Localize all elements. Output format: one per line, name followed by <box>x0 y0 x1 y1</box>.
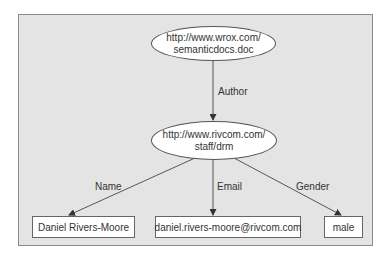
edge-label-email: Email <box>217 181 242 192</box>
node-person-line2: staff/drm <box>195 141 234 153</box>
node-gender-value-box: male <box>324 216 363 238</box>
edge-label-author: Author <box>218 86 247 97</box>
node-name-value-box: Daniel Rivers-Moore <box>32 216 135 238</box>
edge-label-gender: Gender <box>296 181 329 192</box>
node-document-line2: semanticdocs.doc <box>173 44 253 56</box>
edge-label-name: Name <box>95 181 122 192</box>
node-person-ellipse: http://www.rivcom.com/ staff/drm <box>151 121 277 160</box>
node-document-ellipse: http://www.wrox.com/ semanticdocs.doc <box>151 26 276 61</box>
node-email-value-box: daniel.rivers-moore@rivcom.com <box>155 216 301 238</box>
node-person-line1: http://www.rivcom.com/ <box>163 129 266 141</box>
node-document-line1: http://www.wrox.com/ <box>166 32 260 44</box>
